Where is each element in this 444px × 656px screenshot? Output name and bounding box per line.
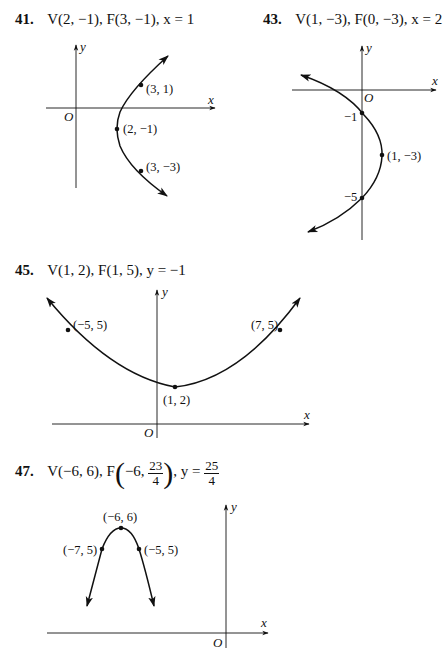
point-dot [278, 328, 283, 333]
parabola-curve [87, 528, 154, 606]
graph-43 [292, 46, 436, 240]
point-dot [360, 111, 365, 116]
point-dot [66, 328, 71, 333]
point-dot [115, 127, 120, 132]
point-label: (7, 5) [251, 318, 278, 332]
parabola-curve [47, 298, 300, 387]
origin-label: O [213, 635, 223, 650]
x-axis-label: x [303, 407, 310, 422]
point-label: (2, −1) [123, 122, 157, 136]
point-dot [360, 196, 365, 201]
point-dot [137, 547, 142, 552]
y-axis-label: y [364, 40, 372, 55]
figures: y x O (3, 1) (2, −1) (3, −3) y x O −1 (1… [0, 0, 444, 656]
point-label: (−6, 6) [103, 510, 137, 524]
y-axis-label: y [160, 284, 168, 299]
point-label: (1, −3) [387, 149, 421, 163]
graph-47 [47, 505, 268, 648]
y-axis-label: y [229, 499, 237, 514]
point-dot [380, 153, 385, 158]
point-label: (−5, 5) [73, 318, 107, 332]
point-dot [139, 83, 144, 88]
point-label: −5 [344, 190, 357, 204]
point-dot [119, 526, 124, 531]
point-label: −1 [344, 110, 357, 124]
x-axis-label: x [260, 615, 267, 630]
x-axis-label: x [207, 92, 214, 107]
origin-label: O [144, 425, 154, 440]
origin-label: O [364, 90, 374, 105]
point-dot [139, 169, 144, 174]
point-label: (3, −3) [146, 160, 180, 174]
point-label: (−7, 5) [63, 543, 97, 557]
point-label: (3, 1) [146, 82, 173, 96]
point-dot [173, 385, 178, 390]
origin-label: O [64, 109, 74, 124]
point-label: (−5, 5) [144, 543, 178, 557]
graph-45 [47, 290, 309, 438]
point-dot [100, 547, 105, 552]
y-axis-label: y [78, 39, 86, 54]
point-label: (1, 2) [163, 393, 190, 407]
x-axis-label: x [431, 73, 438, 88]
